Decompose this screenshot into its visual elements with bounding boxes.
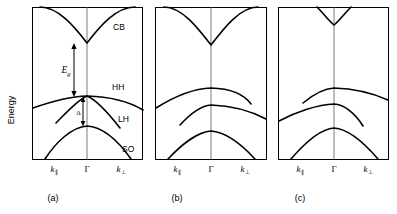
panel-c: k∥ Γ k⊥ (c) bbox=[279, 7, 389, 203]
panel-a-band-hh bbox=[33, 96, 143, 110]
panel-c-caption: (c) bbox=[295, 193, 306, 203]
panel-b-caption: (b) bbox=[172, 193, 183, 203]
panel-b: k∥ Γ k⊥ (b) bbox=[156, 7, 267, 203]
panel-c-tick-kparallel: k∥ bbox=[297, 164, 304, 176]
panel-b-band-hh bbox=[156, 88, 251, 108]
panel-b-band-lh bbox=[180, 105, 266, 125]
band-structure-figure: Energy Eg Δ CB HH LH SO bbox=[0, 0, 397, 214]
panel-b-tick-gamma: Γ bbox=[208, 164, 213, 174]
panel-a-tick-kparallel: k∥ bbox=[51, 164, 58, 176]
panel-b-tick-kperp: k⊥ bbox=[241, 164, 250, 175]
panel-a-spinorbit-arrow bbox=[81, 97, 86, 127]
panel-a-band-so bbox=[45, 126, 131, 159]
panel-a-label-lh: LH bbox=[118, 114, 129, 124]
panel-b-tick-kparallel: k∥ bbox=[174, 164, 181, 176]
panel-a-tick-kperp: k⊥ bbox=[117, 164, 126, 175]
panel-a-label-hh: HH bbox=[112, 82, 124, 92]
panel-a: Eg Δ CB HH LH SO k∥ Γ k⊥ (a) bbox=[33, 7, 144, 203]
panel-c-band-hh bbox=[303, 88, 388, 103]
panel-a-bandgap-label: Eg bbox=[60, 65, 71, 77]
panel-a-label-cb: CB bbox=[113, 22, 125, 32]
panel-a-spinorbit-label: Δ bbox=[76, 109, 81, 117]
panel-c-band-lh bbox=[279, 104, 363, 126]
panel-a-caption: (a) bbox=[48, 193, 59, 203]
panel-a-tick-gamma: Γ bbox=[84, 164, 89, 174]
panel-a-band-lh bbox=[56, 96, 120, 128]
panel-c-tick-gamma: Γ bbox=[331, 164, 336, 174]
y-axis-label: Energy bbox=[6, 95, 16, 124]
panel-a-label-so: SO bbox=[122, 144, 135, 154]
panel-c-tick-kperp: k⊥ bbox=[364, 164, 373, 175]
panel-a-bandgap-arrow bbox=[71, 43, 76, 97]
